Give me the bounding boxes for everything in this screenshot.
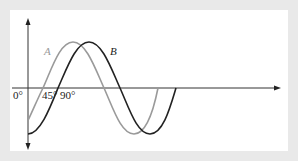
curve-b-label: B [110,45,117,57]
tick-label-0: 0° [13,89,23,101]
tick-label-45: 45° [42,89,57,101]
x-axis-arrow-icon [274,86,281,91]
curve-a-label: A [43,45,51,57]
y-axis-down-arrow-icon [26,143,31,150]
y-axis-up-arrow-icon [26,18,31,25]
tick-label-90: 90° [60,89,75,101]
waveform-diagram: A B 0° 45° 90° [0,0,298,161]
